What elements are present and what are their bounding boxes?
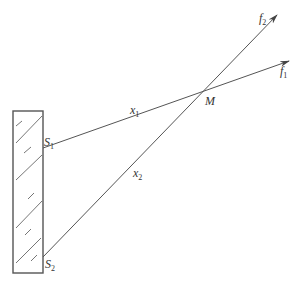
label-f1: f1 xyxy=(280,64,287,80)
label-x1: x1 xyxy=(129,103,139,119)
wall-outline xyxy=(13,111,43,273)
wall-hatching xyxy=(16,116,42,263)
hatched-wall xyxy=(13,111,43,273)
label-s2: S2 xyxy=(45,257,55,273)
label-f2: f2 xyxy=(259,11,266,27)
label-m: M xyxy=(204,94,216,108)
label-s1: S1 xyxy=(44,135,54,151)
ray-s1-f1 xyxy=(43,61,289,148)
label-x2: x2 xyxy=(132,166,142,182)
diagram-canvas: S1 S2 x1 x2 M f1 f2 xyxy=(0,0,298,291)
